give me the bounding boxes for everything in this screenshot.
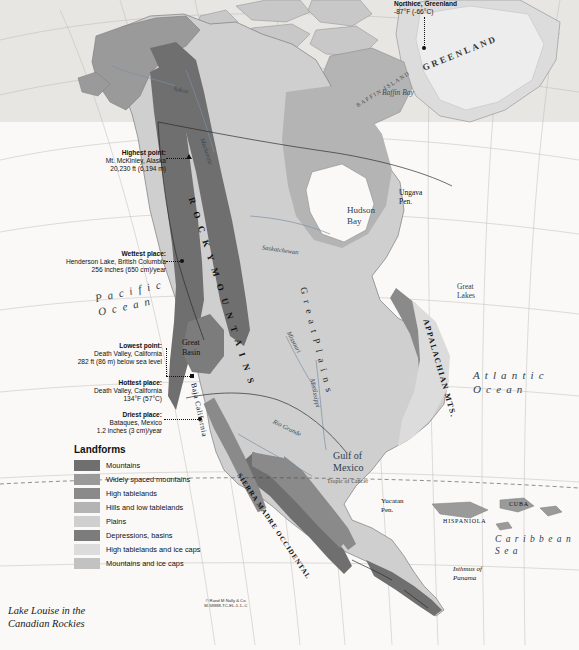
callout-lowest-line2: Death Valley, California	[40, 350, 162, 358]
legend-title: Landforms	[74, 444, 224, 455]
legend-label-mountains: Mountains	[106, 461, 140, 470]
legend-item-widely-spaced-mountains: Widely spaced mountains	[74, 473, 224, 486]
photo-caption: Lake Louise in the Canadian Rockies	[8, 604, 168, 630]
callout-lowest-point: Lowest point: Death Valley, California 2…	[40, 342, 162, 367]
callout-highest-line2: Mt. McKinley, Alaska	[54, 157, 166, 165]
callout-hottest-line1: Hottest place:	[40, 379, 162, 387]
callout-lowest-line3: 282 ft (86 m) below sea level	[40, 358, 162, 366]
label-atlantic-ocean: A t l a n t i c O c e a n	[473, 368, 545, 396]
label-isthmus-of-panama: Isthmus of Panama	[453, 565, 482, 582]
legend-label-depressions-basins: Depressions, basins	[106, 531, 173, 540]
callout-wettest-place: Wettest place: Henderson Lake, British C…	[36, 250, 166, 275]
callout-northice-line2: -87°F (-66°C)	[394, 8, 514, 16]
callout-wettest-line1: Wettest place:	[36, 250, 166, 258]
legend-item-depressions-basins: Depressions, basins	[74, 529, 224, 542]
label-great-basin: Great Basin	[182, 338, 200, 358]
callout-driest-line3: 1.2 inches (3 cm)/year	[62, 427, 162, 435]
wettest-point-marker	[180, 259, 184, 263]
lowest-leader-h	[166, 376, 190, 377]
lowest-leader-v	[166, 348, 167, 376]
legend: Landforms Mountains Widely spaced mounta…	[74, 444, 224, 571]
label-yucatan-peninsula: Yucatan Pen.	[381, 497, 404, 514]
legend-label-high-tablelands: High tablelands	[106, 489, 157, 498]
northice-leader	[424, 17, 425, 47]
label-ungava-peninsula: Ungava Pen.	[399, 188, 422, 206]
legend-label-mountains-ice-caps: Mountains and ice caps	[106, 559, 184, 568]
callout-wettest-line3: 256 inches (650 cm)/year	[36, 266, 166, 274]
callout-highest-line1: Highest point:	[54, 149, 166, 157]
driest-point-marker	[198, 417, 202, 421]
callout-highest-point: Highest point: Mt. McKinley, Alaska 20,2…	[54, 149, 166, 174]
label-tropic-of-cancer: Tropic of Cancer	[327, 478, 368, 484]
legend-swatch-mountains	[74, 460, 100, 471]
legend-label-plains: Plains	[106, 517, 126, 526]
legend-item-plains: Plains	[74, 515, 224, 528]
callout-driest-place: Driest place: Bataques, Mexico 1.2 inche…	[62, 411, 162, 436]
legend-item-high-tablelands: High tablelands	[74, 487, 224, 500]
callout-northice-greenland: Northice, Greenland -87°F (-66°C)	[394, 0, 514, 16]
callout-driest-line1: Driest place:	[62, 411, 162, 419]
legend-swatch-hills-low-tablelands	[74, 502, 100, 513]
callout-hottest-line3: 134°F (57°C)	[40, 395, 162, 403]
wettest-leader	[166, 261, 180, 262]
callout-lowest-line1: Lowest point:	[40, 342, 162, 350]
legend-swatch-high-tablelands-ice-caps	[74, 544, 100, 555]
callout-northice-line1: Northice, Greenland	[394, 0, 514, 8]
highest-point-leader	[166, 158, 188, 159]
legend-item-mountains: Mountains	[74, 459, 224, 472]
callout-hottest-line2: Death Valley, California	[40, 387, 162, 395]
northice-point-marker	[422, 46, 426, 50]
lowest-point-marker	[190, 374, 194, 378]
map-page: have volcanoes along the Pacific Coast.	[0, 0, 579, 650]
label-caribbean-sea: C a r i b b e a n S e a	[495, 533, 572, 557]
legend-label-widely-spaced-mountains: Widely spaced mountains	[106, 475, 190, 484]
legend-label-high-tablelands-ice-caps: High tablelands and ice caps	[106, 545, 201, 554]
highest-point-marker	[186, 154, 192, 159]
callout-wettest-line2: Henderson Lake, British Columbia	[36, 258, 166, 266]
callout-driest-line2: Bataques, Mexico	[62, 419, 162, 427]
callout-highest-line3: 20,230 ft (6,194 m)	[54, 165, 166, 173]
legend-swatch-depressions-basins	[74, 530, 100, 541]
label-cuba: HISPANIOLA	[443, 518, 486, 524]
legend-swatch-plains	[74, 516, 100, 527]
legend-swatch-mountains-ice-caps	[74, 558, 100, 569]
legend-item-mountains-ice-caps: Mountains and ice caps	[74, 557, 224, 570]
label-gulf-of-mexico: Gulf of Mexico	[333, 450, 364, 474]
driest-leader	[164, 419, 198, 420]
callout-hottest-place: Hottest place: Death Valley, California …	[40, 379, 162, 404]
legend-item-hills-low-tablelands: Hills and low tablelands	[74, 501, 224, 514]
label-hispaniola: CUBA	[509, 501, 529, 507]
label-hudson-bay: Hudson Bay	[347, 205, 375, 227]
label-great-lakes: Great Lakes	[457, 282, 475, 300]
legend-item-high-tablelands-ice-caps: High tablelands and ice caps	[74, 543, 224, 556]
legend-swatch-widely-spaced-mountains	[74, 474, 100, 485]
label-baffin-bay: Baffin Bay	[382, 88, 414, 97]
legend-label-hills-low-tablelands: Hills and low tablelands	[106, 503, 183, 512]
legend-swatch-high-tablelands	[74, 488, 100, 499]
map-credit: © Rand M·Nally & Co. M-58888-TC-EL-1-1--…	[186, 598, 266, 609]
